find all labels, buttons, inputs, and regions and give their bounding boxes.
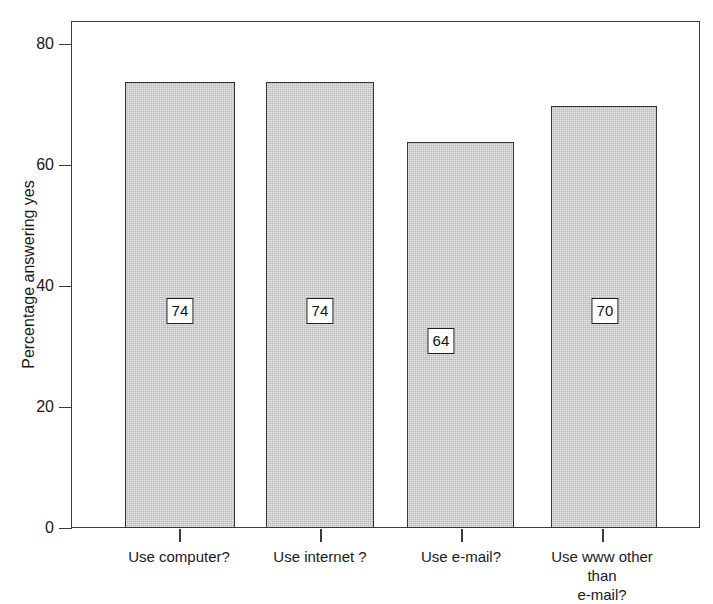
- x-tick-label-use-email: Use e-mail?: [421, 547, 501, 566]
- x-tick-label-use-internet: Use internet ?: [273, 547, 366, 566]
- x-tick-mark-use-computer: [179, 529, 181, 542]
- x-tick-label-use-www-other: Use www other than e-mail?: [547, 547, 658, 604]
- x-tick-mark-use-www-other: [602, 529, 604, 542]
- y-tick-label-80: 80: [36, 36, 54, 52]
- value-label-use-computer: 74: [166, 298, 193, 324]
- bar-use-email[interactable]: [407, 142, 514, 528]
- x-tick-label-use-computer: Use computer?: [128, 547, 230, 566]
- value-label-use-internet: 74: [306, 298, 333, 324]
- y-tick-label-60: 60: [36, 157, 54, 173]
- y-tick-mark-60: [59, 165, 72, 166]
- y-tick-mark-80: [59, 44, 72, 45]
- y-axis-title: Percentage answering yes: [18, 21, 40, 528]
- y-tick-mark-40: [59, 286, 72, 287]
- y-tick-label-0: 0: [45, 520, 54, 536]
- value-label-use-email: 64: [427, 328, 454, 354]
- y-tick-label-20: 20: [36, 399, 54, 415]
- y-tick-mark-20: [59, 407, 72, 408]
- y-tick-label-40: 40: [36, 278, 54, 294]
- y-tick-mark-0: [59, 528, 72, 529]
- value-label-use-www-other: 70: [591, 298, 618, 324]
- x-tick-mark-use-email: [461, 529, 463, 542]
- x-tick-mark-use-internet: [320, 529, 322, 542]
